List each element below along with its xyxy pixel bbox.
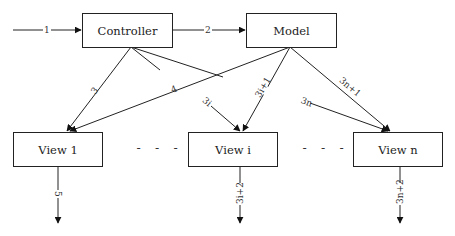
edge-stub [131,47,160,70]
view-n-node: View n [353,132,443,167]
edge-label-1: 1 [44,25,50,35]
edge-label-2: 2 [205,25,211,35]
ellipsis-right: - - - [301,141,347,155]
edge-controller-cross [131,47,223,77]
view-1-label: View 1 [38,143,77,157]
edge-label-3n: 3n [299,95,313,108]
edge-label-5: 5 [53,191,63,197]
edge-label-3: 3 [89,85,101,96]
view-n-label: View n [378,143,418,157]
controller-node: Controller [82,13,173,48]
view-i-label: View i [215,143,251,157]
controller-label: Controller [98,24,158,38]
edge-label-3n1: 3n+1 [337,75,362,99]
edge-label-3n2: 3n+2 [395,179,405,204]
ellipsis-left: - - - [135,141,181,155]
model-node: Model [246,13,337,48]
edge-label-3i2: 3i+2 [235,182,245,204]
view-1-node: View 1 [13,132,103,167]
model-label: Model [273,24,310,38]
edge-3 [67,47,131,131]
edge-3n1 [290,47,390,131]
view-i-node: View i [188,132,278,167]
diagram-edges: 1 2 3 4 3i 3i+1 3n 3n+1 5 3i+2 3n+2 [0,0,455,236]
edge-3n [310,103,388,131]
edge-3i [211,106,240,131]
